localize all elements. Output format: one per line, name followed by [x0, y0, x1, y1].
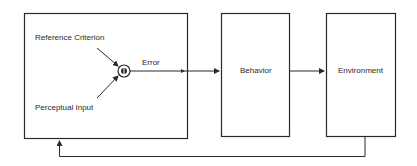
- environment-label: Environment: [338, 66, 383, 76]
- comparator-icon: [118, 65, 130, 77]
- error-midpoint-arrow-icon: [181, 69, 185, 73]
- reference-criterion-label: Reference Criterion: [35, 33, 104, 43]
- feedback-arrow: [60, 137, 366, 157]
- perceptual-input-label: Perceptual Input: [35, 103, 93, 113]
- behavior-label: Behavior: [240, 66, 272, 76]
- reference-arrow: [97, 48, 118, 66]
- error-label: Error: [142, 58, 160, 68]
- perceptual-arrow: [97, 76, 118, 98]
- diagram-canvas: [0, 0, 417, 166]
